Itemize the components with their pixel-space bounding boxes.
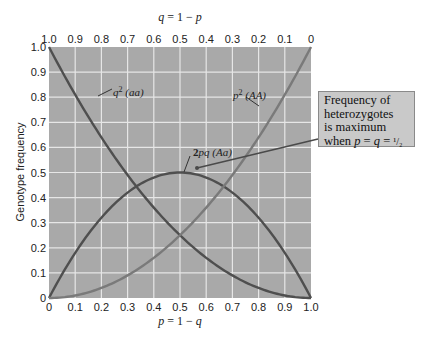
svg-text:0.8: 0.8 (31, 91, 46, 103)
svg-text:0.8: 0.8 (251, 301, 266, 313)
svg-text:0: 0 (46, 301, 52, 313)
svg-text:0.3: 0.3 (225, 33, 240, 45)
svg-text:0: 0 (308, 33, 314, 45)
y-axis-title: Genotype frequency (14, 122, 26, 222)
svg-text:0.2: 0.2 (31, 242, 46, 254)
svg-text:p2 (AA): p2 (AA) (232, 88, 266, 102)
svg-text:0.7: 0.7 (225, 301, 240, 313)
svg-text:0.6: 0.6 (199, 301, 214, 313)
top-axis-title: q = 1 − p (158, 10, 202, 24)
svg-text:0.4: 0.4 (31, 192, 46, 204)
svg-text:0.3: 0.3 (120, 301, 135, 313)
svg-text:0.2: 0.2 (94, 301, 109, 313)
heterozygote-callout: Frequency of heterozygotes is maximum wh… (318, 91, 415, 147)
callout-line-4: when p = q = ¹/₂ (324, 135, 414, 149)
svg-text:0.4: 0.4 (199, 33, 214, 45)
genotype-frequency-chart: 1.00.90.80.70.60.50.40.30.20.10 00.10.20… (0, 0, 430, 342)
svg-text:0.5: 0.5 (31, 167, 46, 179)
svg-text:q2 (aa): q2 (aa) (113, 85, 144, 99)
svg-text:0.1: 0.1 (31, 267, 46, 279)
svg-text:0.6: 0.6 (31, 141, 46, 153)
svg-text:0.5: 0.5 (172, 301, 187, 313)
svg-text:2pq (Aa): 2pq (Aa) (193, 146, 232, 159)
svg-text:0.5: 0.5 (172, 33, 187, 45)
callout-line-2: heterozygotes (324, 108, 414, 122)
callout-line-1: Frequency of (324, 94, 414, 108)
svg-text:0.7: 0.7 (120, 33, 135, 45)
svg-text:1.0: 1.0 (31, 41, 46, 53)
svg-text:0.9: 0.9 (277, 301, 292, 313)
svg-text:0.9: 0.9 (31, 66, 46, 78)
svg-text:0.2: 0.2 (251, 33, 266, 45)
svg-text:0.1: 0.1 (277, 33, 292, 45)
callout-line-3: is maximum (324, 121, 414, 135)
svg-text:0.6: 0.6 (146, 33, 161, 45)
svg-text:0.3: 0.3 (31, 217, 46, 229)
svg-text:0.8: 0.8 (94, 33, 109, 45)
svg-text:0.1: 0.1 (68, 301, 83, 313)
bottom-axis-title: p = 1 − q (157, 314, 202, 328)
top-axis-ticks: 1.00.90.80.70.60.50.40.30.20.10 (41, 33, 314, 45)
svg-text:1.0: 1.0 (303, 301, 318, 313)
svg-text:0.7: 0.7 (31, 116, 46, 128)
svg-text:0.9: 0.9 (68, 33, 83, 45)
bottom-axis-ticks: 00.10.20.30.40.50.60.70.80.91.0 (46, 301, 319, 313)
svg-text:0.4: 0.4 (146, 301, 161, 313)
y-axis-ticks: 00.10.20.30.40.50.60.70.80.91.0 (31, 41, 46, 304)
svg-text:0: 0 (40, 292, 46, 304)
